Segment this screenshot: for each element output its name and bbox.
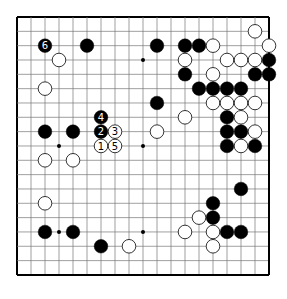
- white-stone: [66, 154, 80, 168]
- black-stone: [220, 125, 234, 139]
- white-stone: [248, 125, 262, 139]
- black-stone: [150, 39, 164, 53]
- black-stone: [234, 125, 248, 139]
- white-stone: [248, 25, 262, 39]
- star-point: [141, 230, 145, 234]
- white-stone: [52, 53, 66, 67]
- move-number: 2: [98, 126, 104, 137]
- white-stone: [234, 139, 248, 153]
- white-stone: [206, 239, 220, 253]
- black-stone: [150, 96, 164, 110]
- black-stone: [220, 82, 234, 96]
- black-stone: [206, 82, 220, 96]
- white-stone: [234, 53, 248, 67]
- white-stone: [220, 96, 234, 110]
- move-number: 6: [42, 40, 48, 51]
- star-point: [57, 230, 61, 234]
- black-stone: [192, 82, 206, 96]
- star-point: [57, 144, 61, 148]
- black-stone: [66, 225, 80, 239]
- white-stone: [178, 225, 192, 239]
- go-board: 642315: [0, 0, 287, 299]
- white-stone: [38, 196, 52, 210]
- white-stone: 3: [108, 125, 122, 139]
- white-stone: [38, 82, 52, 96]
- black-stone: [206, 211, 220, 225]
- white-stone: [248, 53, 262, 67]
- black-stone: [38, 125, 52, 139]
- black-stone: [80, 39, 94, 53]
- black-stone: [234, 82, 248, 96]
- white-stone: [234, 96, 248, 110]
- black-stone: 4: [94, 111, 108, 125]
- white-stone: [192, 211, 206, 225]
- black-stone: [178, 68, 192, 82]
- black-stone: [192, 39, 206, 53]
- white-stone: 5: [108, 139, 122, 153]
- white-stone: [220, 53, 234, 67]
- black-stone: 2: [94, 125, 108, 139]
- move-number: 1: [98, 141, 104, 152]
- black-stone: 6: [38, 39, 52, 53]
- white-stone: [150, 125, 164, 139]
- white-stone: [206, 96, 220, 110]
- move-number: 5: [112, 141, 118, 152]
- black-stone: [234, 225, 248, 239]
- black-stone: [262, 53, 276, 67]
- white-stone: [234, 111, 248, 125]
- move-number: 3: [112, 126, 118, 137]
- white-stone: [206, 68, 220, 82]
- move-number: 4: [98, 112, 104, 123]
- black-stone: [248, 68, 262, 82]
- black-stone: [262, 68, 276, 82]
- black-stone: [206, 196, 220, 210]
- star-point: [141, 58, 145, 62]
- black-stone: [220, 139, 234, 153]
- black-stone: [234, 182, 248, 196]
- white-stone: [262, 39, 276, 53]
- black-stone: [248, 139, 262, 153]
- white-stone: [122, 239, 136, 253]
- white-stone: [38, 154, 52, 168]
- white-stone: [178, 53, 192, 67]
- black-stone: [178, 39, 192, 53]
- black-stone: [220, 111, 234, 125]
- white-stone: [248, 96, 262, 110]
- black-stone: [220, 225, 234, 239]
- white-stone: [206, 225, 220, 239]
- black-stone: [94, 239, 108, 253]
- white-stone: [178, 111, 192, 125]
- star-point: [141, 144, 145, 148]
- white-stone: [206, 39, 220, 53]
- black-stone: [38, 225, 52, 239]
- white-stone: 1: [94, 139, 108, 153]
- black-stone: [66, 125, 80, 139]
